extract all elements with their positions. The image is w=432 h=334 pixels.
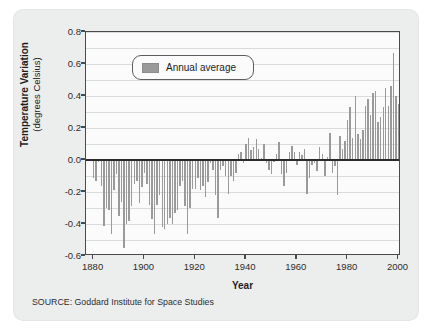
bar xyxy=(179,160,180,186)
bar xyxy=(360,139,361,160)
y-axis-tick-label: 0.8 xyxy=(68,26,81,37)
bar xyxy=(395,96,396,160)
bar xyxy=(101,160,102,186)
bar xyxy=(212,160,213,170)
y-axis-tick-label: -0.2 xyxy=(65,186,81,197)
bar xyxy=(123,160,124,248)
bar xyxy=(388,106,389,160)
legend-swatch-annual-average xyxy=(142,63,159,73)
bar xyxy=(324,160,325,176)
y-axis-tick-label: 0.0 xyxy=(68,154,81,165)
x-axis-tick-mark xyxy=(346,255,347,259)
bar xyxy=(357,134,358,160)
bar xyxy=(136,160,137,181)
bar xyxy=(365,106,366,160)
x-axis-tick-label: 1900 xyxy=(133,261,154,272)
zero-line xyxy=(86,159,399,161)
y-axis-tick-label: -0.6 xyxy=(65,250,81,261)
bar xyxy=(367,99,368,160)
bar xyxy=(332,160,333,173)
x-axis-tick-mark xyxy=(92,255,93,259)
bar xyxy=(385,88,386,160)
bar xyxy=(377,122,378,160)
bar xyxy=(151,160,152,219)
bar xyxy=(116,160,117,174)
bar xyxy=(383,107,384,160)
bar xyxy=(167,160,168,224)
y-axis-tick-label: -0.4 xyxy=(65,218,81,229)
bar xyxy=(144,160,145,173)
bar xyxy=(106,160,107,208)
x-axis-tick-mark xyxy=(244,255,245,259)
bar xyxy=(228,160,229,194)
x-axis-tick-label: 1940 xyxy=(234,261,255,272)
legend-label-annual-average: Annual average xyxy=(166,62,236,73)
bar xyxy=(393,53,394,160)
gridline xyxy=(86,80,399,81)
gridline xyxy=(86,48,399,49)
gridline xyxy=(86,192,399,193)
bar xyxy=(93,160,94,178)
y-axis-tick-label: 0.4 xyxy=(68,90,81,101)
bar xyxy=(217,160,218,218)
bar xyxy=(372,93,373,160)
bar xyxy=(174,160,175,213)
y-axis-tick-label: 0.2 xyxy=(68,122,81,133)
bar xyxy=(195,160,196,189)
bar xyxy=(349,107,350,160)
bar xyxy=(202,160,203,186)
bar xyxy=(149,160,150,205)
bar xyxy=(169,160,170,218)
bar xyxy=(177,160,178,210)
bar xyxy=(355,96,356,160)
bar xyxy=(184,160,185,206)
gridline xyxy=(86,32,399,33)
x-axis-tick-label: 1920 xyxy=(184,261,205,272)
bar xyxy=(347,120,348,160)
bar xyxy=(281,160,282,174)
bar xyxy=(352,138,353,160)
x-axis-tick-mark xyxy=(295,255,296,259)
bar xyxy=(164,160,165,229)
bar xyxy=(111,160,112,234)
bar xyxy=(291,146,292,160)
bar xyxy=(156,160,157,205)
bar xyxy=(207,160,208,182)
gridline xyxy=(86,96,399,97)
bar xyxy=(134,160,135,184)
bar xyxy=(375,91,376,160)
bar xyxy=(197,160,198,178)
bar xyxy=(283,160,284,186)
x-axis-tick-label: 2000 xyxy=(387,261,408,272)
bar xyxy=(271,160,272,174)
bar xyxy=(245,144,246,160)
bar xyxy=(344,141,345,160)
bar xyxy=(154,160,155,234)
bar xyxy=(121,160,122,202)
y-axis-tick-labels: 0.80.60.40.20.0-0.2-0.4-0.6 xyxy=(40,31,81,255)
bar xyxy=(141,160,142,187)
x-axis-tick-mark xyxy=(194,255,195,259)
y-axis-title-main: Temperature Variation xyxy=(19,15,31,175)
gridline xyxy=(86,224,399,225)
x-axis-tick-label: 1980 xyxy=(336,261,357,272)
bar xyxy=(205,160,206,197)
bar xyxy=(187,160,188,234)
bar xyxy=(286,160,287,173)
gridline xyxy=(86,112,399,113)
bar xyxy=(139,160,140,203)
bar xyxy=(162,160,163,227)
bar xyxy=(159,160,160,195)
bar xyxy=(172,160,173,224)
bar xyxy=(189,160,190,208)
bar xyxy=(118,160,119,216)
bar xyxy=(268,160,269,170)
bar xyxy=(337,160,338,195)
x-axis-tick-mark xyxy=(143,255,144,259)
legend: Annual average xyxy=(132,55,254,80)
bar xyxy=(380,117,381,160)
bar xyxy=(370,115,371,160)
x-axis-title: Year xyxy=(85,280,400,291)
gridline xyxy=(86,128,399,129)
bar xyxy=(225,160,226,176)
